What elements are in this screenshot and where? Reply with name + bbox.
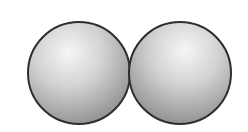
spheres-figure (0, 0, 248, 132)
diagram-canvas (0, 0, 248, 132)
right-sphere (129, 22, 231, 124)
left-sphere (28, 22, 130, 124)
